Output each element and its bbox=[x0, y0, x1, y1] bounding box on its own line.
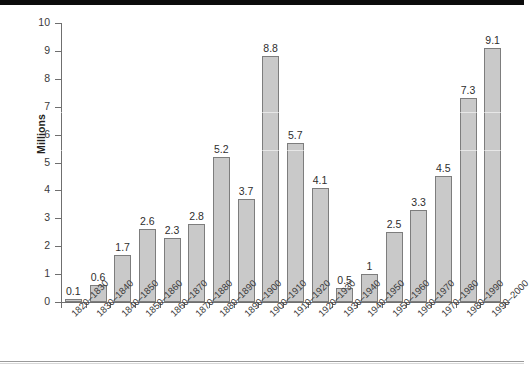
y-axis-tick bbox=[55, 163, 62, 164]
bar-value-label: 2.3 bbox=[152, 224, 192, 236]
y-axis-tick bbox=[55, 274, 62, 275]
x-axis-tick bbox=[61, 303, 62, 308]
y-axis-tick-label: 8 bbox=[22, 72, 50, 84]
y-axis-tick-label: 7 bbox=[22, 100, 50, 112]
bar-value-label: 3.3 bbox=[399, 196, 439, 208]
bottom-divider bbox=[0, 361, 524, 362]
bar bbox=[484, 48, 501, 302]
y-axis-tick-label: 0 bbox=[22, 295, 50, 307]
bar-value-label: 8.8 bbox=[251, 42, 291, 54]
bar-value-label: 9.1 bbox=[473, 34, 513, 46]
y-axis-tick-label: 2 bbox=[22, 239, 50, 251]
y-axis-tick-label: 10 bbox=[22, 16, 50, 28]
y-axis-tick bbox=[55, 23, 62, 24]
bottom-divider-shadow bbox=[0, 363, 524, 364]
bar-value-label: 3.7 bbox=[226, 185, 266, 197]
y-axis-tick-label: 1 bbox=[22, 267, 50, 279]
y-axis-tick-label: 4 bbox=[22, 183, 50, 195]
bar-value-label: 2.5 bbox=[374, 218, 414, 230]
y-axis-tick bbox=[55, 246, 62, 247]
y-axis-tick bbox=[55, 190, 62, 191]
scan-artifact-line bbox=[61, 112, 510, 113]
bar bbox=[262, 56, 279, 302]
scan-artifact-line bbox=[61, 150, 510, 151]
bar bbox=[460, 98, 477, 302]
y-axis-tick-label: 3 bbox=[22, 211, 50, 223]
bar-value-label: 4.1 bbox=[300, 174, 340, 186]
y-axis-tick bbox=[55, 51, 62, 52]
bar-value-label: 5.2 bbox=[201, 143, 241, 155]
y-axis-tick-label: 5 bbox=[22, 156, 50, 168]
y-axis-tick-label: 9 bbox=[22, 44, 50, 56]
bar-value-label: 7.3 bbox=[448, 84, 488, 96]
bar-value-label: 4.5 bbox=[423, 162, 463, 174]
y-axis-tick bbox=[55, 135, 62, 136]
bar-value-label: 1 bbox=[349, 260, 389, 272]
y-axis-tick bbox=[55, 79, 62, 80]
y-axis-tick bbox=[55, 107, 62, 108]
bar-value-label: 2.8 bbox=[177, 210, 217, 222]
y-axis-tick bbox=[55, 218, 62, 219]
bar-value-label: 5.7 bbox=[275, 129, 315, 141]
bar-value-label: 1.7 bbox=[103, 241, 143, 253]
y-axis-tick-label: 6 bbox=[22, 128, 50, 140]
